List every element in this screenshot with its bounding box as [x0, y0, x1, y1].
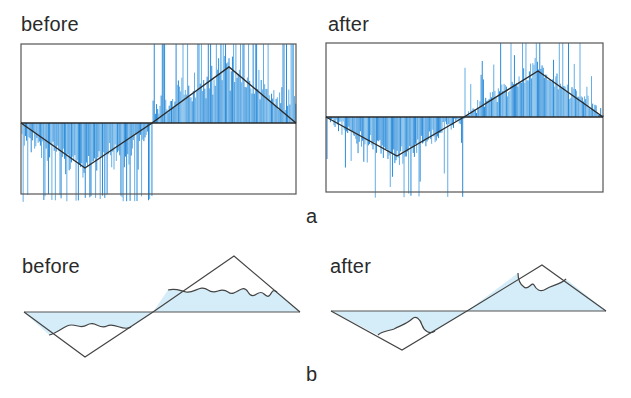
panel-a-before-chart — [21, 44, 296, 202]
fill-region-upper — [467, 273, 606, 311]
panel-b-after-diagram — [331, 265, 606, 350]
fill-region-lower — [24, 312, 153, 335]
figure-canvas — [0, 0, 631, 398]
panel-a-after-chart — [326, 43, 603, 198]
panel-b-before-diagram — [24, 256, 300, 357]
